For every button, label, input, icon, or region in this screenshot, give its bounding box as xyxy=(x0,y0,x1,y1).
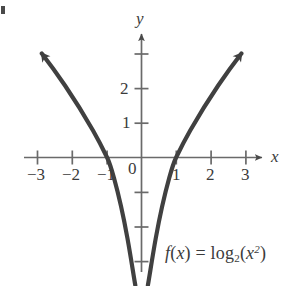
x-axis-label: x xyxy=(271,148,279,165)
function-label-equals: = xyxy=(196,243,206,263)
origin-label: 0 xyxy=(128,160,137,177)
function-label-log: log xyxy=(211,243,235,263)
function-label-arg-close: ) xyxy=(260,243,266,263)
x-tick-label--3: −3 xyxy=(27,166,45,183)
x-tick-label-3: 3 xyxy=(241,166,250,183)
function-label: f(x) = log2(x2) xyxy=(165,244,266,264)
function-label-close-paren: ) xyxy=(185,243,191,263)
x-tick-label-2: 2 xyxy=(206,166,215,183)
x-tick-label-1: 1 xyxy=(172,166,181,183)
y-tick-label-1: 1 xyxy=(122,114,131,131)
y-tick-label-2: 2 xyxy=(120,80,129,97)
x-tick-label--1: −1 xyxy=(97,166,115,183)
function-label-variable: x xyxy=(176,243,184,263)
log-function-graph-figure: −3 −2 −1 1 2 3 0 2 1 x y f(x) = log2(x2) xyxy=(0,0,291,286)
x-tick-label--2: −2 xyxy=(62,166,80,183)
y-axis-label: y xyxy=(136,10,144,27)
